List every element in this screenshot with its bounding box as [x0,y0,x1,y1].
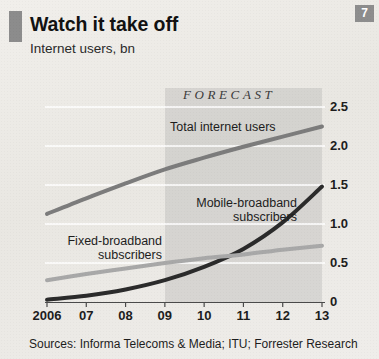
y-axis-tick-label: 2.0 [330,138,348,153]
chart-figure: Watch it take off Internet users, bn 7 F… [0,0,379,359]
series-label-mobile-broadband: Mobile-broadband subscribers [175,196,297,224]
x-axis-tick-label: 12 [263,308,303,323]
y-axis-tick-label: 1.5 [330,177,348,192]
x-axis-ticks [47,303,322,308]
forecast-annotation: FORECAST [183,87,275,103]
x-axis-tick-label: 09 [145,308,185,323]
x-axis-tick-label: 10 [184,308,224,323]
title-marker-bar [9,11,22,42]
series-label-total-internet-users: Total internet users [170,120,276,134]
y-axis-tick-label: 0 [330,294,337,309]
x-axis-tick-label: 08 [106,308,146,323]
chart-subtitle: Internet users, bn [30,41,135,56]
y-axis-tick-label: 2.5 [330,99,348,114]
figure-number-badge: 7 [355,5,374,22]
x-axis-tick-label: 07 [66,308,106,323]
x-axis-tick-label: 2006 [27,308,67,323]
source-note: Sources: Informa Telecoms & Media; ITU; … [29,337,358,351]
x-axis-tick-label: 11 [223,308,263,323]
y-axis-tick-label: 1.0 [330,216,348,231]
series-label-fixed-broadband: Fixed-broadband subscribers [40,234,162,262]
x-axis-tick-label: 13 [302,308,342,323]
y-axis-tick-label: 0.5 [330,255,348,270]
page-title: Watch it take off [30,13,178,36]
